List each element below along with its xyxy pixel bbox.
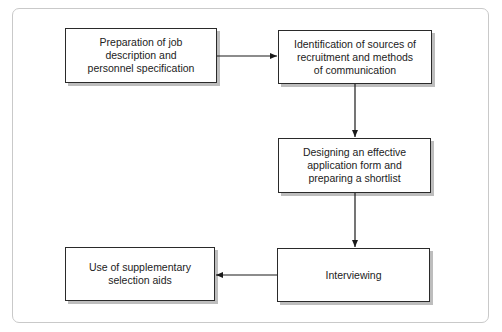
flow-arrows: [0, 0, 502, 332]
